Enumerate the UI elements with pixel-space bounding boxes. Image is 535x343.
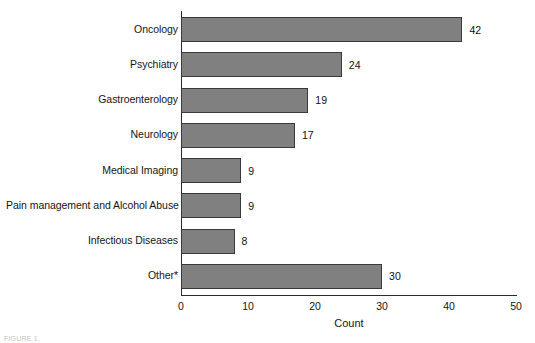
category-label: Other* [6,269,178,281]
bar-oncology [181,17,462,42]
x-tick-label: 0 [178,300,184,312]
bar-psychiatry [181,52,342,77]
bar-value-label: 24 [349,59,361,71]
category-label: Psychiatry [6,58,178,70]
category-label: Oncology [6,23,178,35]
x-tick-label: 40 [443,300,455,312]
bar-neurology [181,123,295,148]
bar-row: 8 [181,229,516,254]
category-label: Gastroenterology [6,93,178,105]
bar-value-label: 9 [248,200,254,212]
bar-other [181,264,382,289]
category-label: Pain management and Alcohol Abuse [6,199,178,211]
category-label: Infectious Diseases [6,234,178,246]
bar-row: 24 [181,52,516,77]
bar-pain-management-and-alcohol-abuse [181,193,241,218]
bar-chart-figure: OncologyPsychiatryGastroenterologyNeurol… [0,0,535,343]
bar-row: 9 [181,193,516,218]
category-label: Neurology [6,128,178,140]
bar-row: 9 [181,158,516,183]
bar-value-label: 19 [315,94,327,106]
x-tick-label: 30 [376,300,388,312]
bar-value-label: 8 [242,235,248,247]
plot-area: 4224191799830 [181,12,516,294]
category-label-column: OncologyPsychiatryGastroenterologyNeurol… [0,0,178,343]
x-tick-label: 20 [309,300,321,312]
bar-row: 30 [181,264,516,289]
x-axis-title: Count [181,317,517,329]
x-tick-label: 10 [242,300,254,312]
bar-row: 42 [181,17,516,42]
bar-medical-imaging [181,158,241,183]
category-label: Medical Imaging [6,164,178,176]
bar-infectious-diseases [181,229,235,254]
bar-row: 17 [181,123,516,148]
bar-value-label: 30 [389,270,401,282]
figure-caption-fragment: FIGURE 1. [4,335,40,343]
bar-value-label: 17 [302,129,314,141]
bar-gastroenterology [181,88,308,113]
bar-value-label: 9 [248,165,254,177]
bar-value-label: 42 [469,24,481,36]
bar-row: 19 [181,88,516,113]
x-axis-line [181,295,517,296]
x-tick-label: 50 [510,300,522,312]
